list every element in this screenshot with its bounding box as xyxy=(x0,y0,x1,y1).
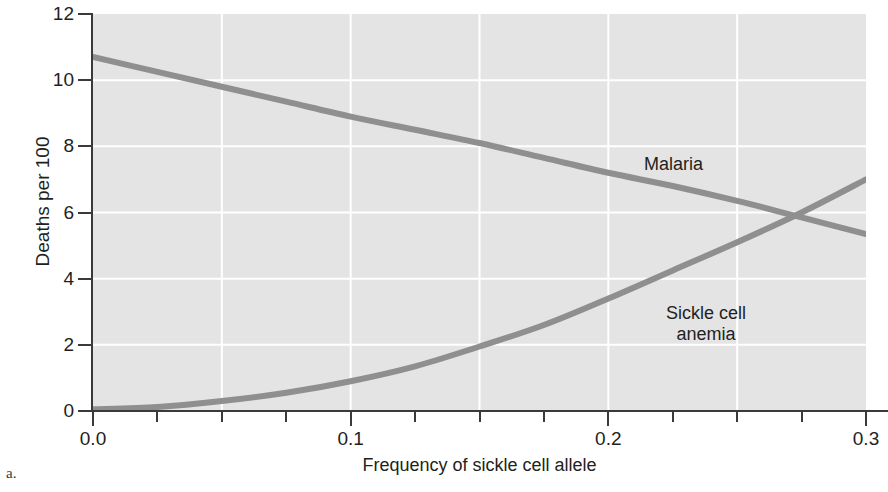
y-axis-tick-label: 0 xyxy=(14,401,74,420)
x-axis-title: Frequency of sickle cell allele xyxy=(93,456,866,474)
x-axis-tick-minor xyxy=(156,412,158,422)
series-label-malaria: Malaria xyxy=(644,154,754,175)
figure-panel-letter: a. xyxy=(6,466,16,481)
x-axis-tick-minor xyxy=(285,412,287,422)
y-axis-line xyxy=(91,13,93,412)
y-axis-tick xyxy=(78,79,91,81)
plot-svg xyxy=(93,14,866,411)
plot-area xyxy=(93,14,866,411)
y-axis-title: Deaths per 100 xyxy=(33,82,52,322)
x-axis-tick-minor xyxy=(543,412,545,422)
y-axis-tick xyxy=(78,410,91,412)
x-axis-tick-label: 0.1 xyxy=(311,429,391,448)
x-axis-tick-minor xyxy=(479,412,481,422)
x-axis-tick-minor xyxy=(221,412,223,422)
x-axis-tick-major xyxy=(350,412,352,426)
x-axis-tick-minor xyxy=(801,412,803,422)
x-axis-tick-minor xyxy=(736,412,738,422)
y-axis-tick xyxy=(78,145,91,147)
x-axis-tick-major xyxy=(92,412,94,426)
figure-container: 024681012 0.00.10.20.3 Deaths per 100 Fr… xyxy=(0,0,888,492)
y-axis-tick-label: 12 xyxy=(14,4,74,23)
y-axis-tick xyxy=(78,344,91,346)
y-axis-tick xyxy=(78,212,91,214)
y-axis-tick-label: 2 xyxy=(14,335,74,354)
x-axis-tick-label: 0.3 xyxy=(826,429,888,448)
y-axis-tick xyxy=(78,278,91,280)
x-axis-tick-minor xyxy=(414,412,416,422)
y-axis-tick xyxy=(78,13,91,15)
x-axis-tick-label: 0.0 xyxy=(53,429,133,448)
x-axis-line xyxy=(78,410,888,412)
x-axis-tick-major xyxy=(607,412,609,426)
x-axis-tick-minor xyxy=(672,412,674,422)
x-axis-tick-label: 0.2 xyxy=(568,429,648,448)
series-label-sickle-cell-anemia: Sickle cell anemia xyxy=(632,303,780,345)
x-axis-tick-major xyxy=(865,412,867,426)
